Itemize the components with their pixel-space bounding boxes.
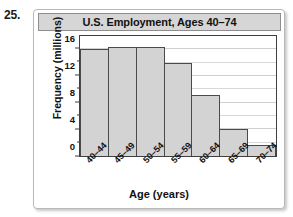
- y-tick-label: 8: [70, 86, 75, 97]
- plot-area: [79, 35, 277, 157]
- scan-artifact-strip: [0, 0, 293, 6]
- y-tick-label: 12: [64, 59, 75, 70]
- y-tick-label: 0: [70, 141, 75, 152]
- x-axis-title: Age (years): [34, 188, 284, 200]
- figure-panel: U.S. Employment, Ages 40–74 Frequency (m…: [33, 9, 285, 209]
- chart-title-band: U.S. Employment, Ages 40–74: [38, 13, 281, 31]
- histogram-bar: [80, 49, 109, 156]
- chart-title: U.S. Employment, Ages 40–74: [82, 16, 236, 28]
- problem-number: 25.: [4, 8, 20, 22]
- y-tick-label: 4: [70, 113, 75, 124]
- x-axis-tick-labels: 40–4445–4950–5455–5960–6465–6970–74: [79, 158, 293, 192]
- y-tick-label: 16: [64, 32, 75, 43]
- plot-wrapper: 0481216: [61, 35, 277, 157]
- histogram-bar: [136, 47, 165, 156]
- histogram-bar: [108, 47, 137, 156]
- histogram-bars: [80, 36, 276, 156]
